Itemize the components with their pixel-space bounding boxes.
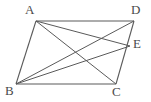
vertex-label-e: E [133, 37, 141, 50]
vertex-label-a: A [25, 3, 34, 16]
vertex-label-b: B [5, 84, 14, 97]
vertex-label-c: C [112, 85, 121, 98]
vertex-label-d: D [131, 3, 140, 16]
geometry-canvas [0, 0, 151, 102]
segment-AE-line [36, 21, 130, 46]
diagonal-BD-line [16, 21, 134, 84]
side-DC-line [116, 21, 134, 84]
segment-BE-line [16, 46, 130, 84]
geometry-figure: A B C D E [0, 0, 151, 102]
